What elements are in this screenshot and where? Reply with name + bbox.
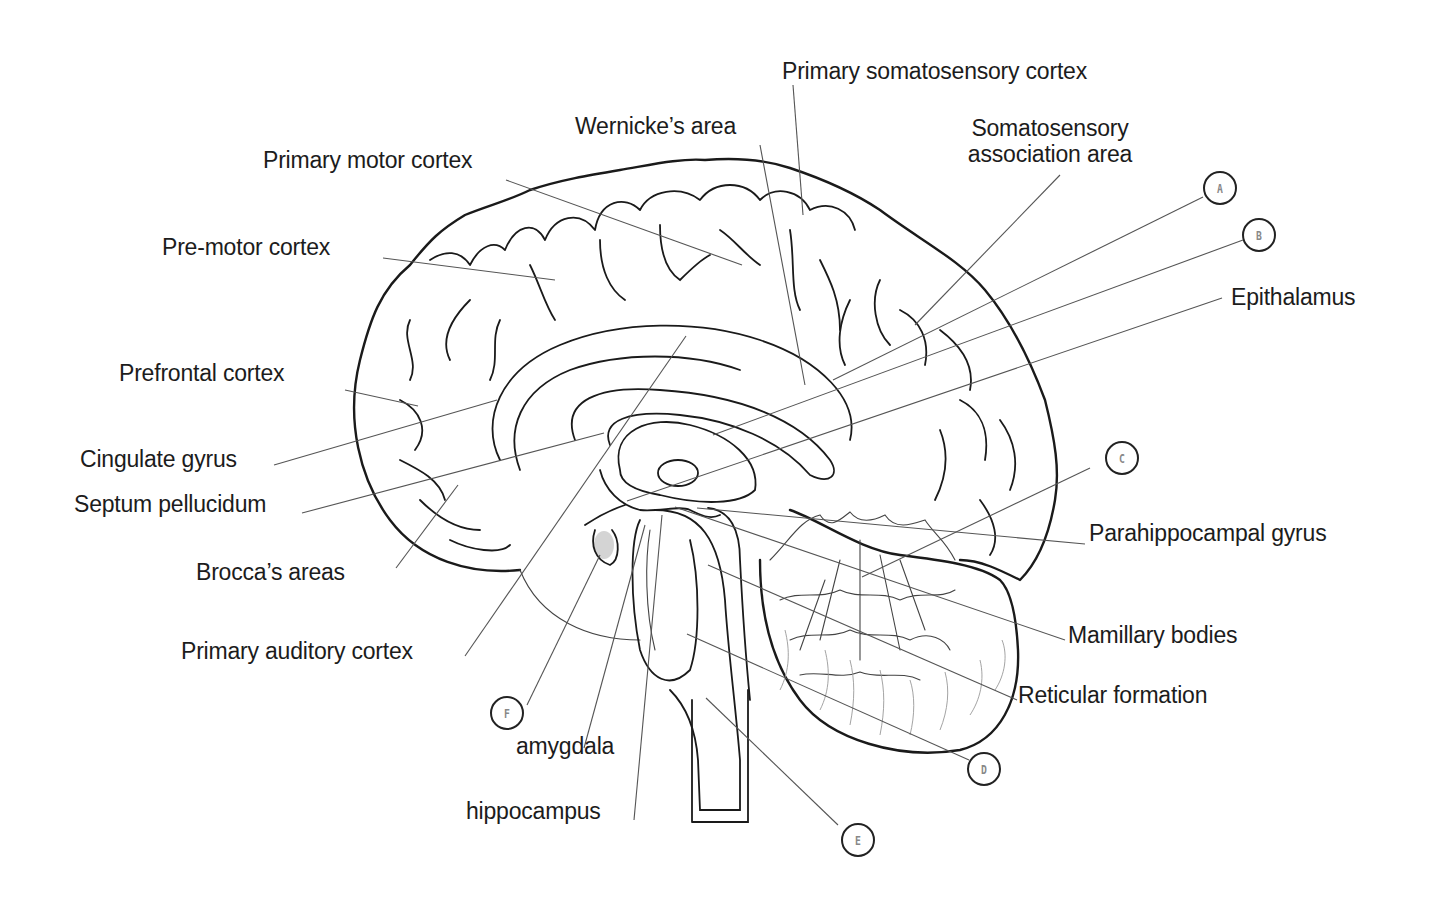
arbor-vitae	[770, 512, 955, 680]
marker-b: B	[1242, 218, 1276, 252]
pons	[633, 520, 698, 680]
marker-a: A	[1203, 171, 1237, 205]
label-line-2: association area	[950, 141, 1150, 167]
label-septum-pellucidum: Septum pellucidum	[74, 491, 266, 517]
label-cingulate-gyrus: Cingulate gyrus	[80, 446, 237, 472]
label-pre-motor-cortex: Pre-motor cortex	[162, 234, 330, 260]
label-prefrontal-cortex: Prefrontal cortex	[119, 360, 284, 386]
marker-f: F	[490, 696, 524, 730]
label-primary-motor-cortex: Primary motor cortex	[263, 147, 472, 173]
label-brocas-areas: Brocca’s areas	[196, 559, 345, 585]
leader-lines	[274, 85, 1243, 825]
label-amygdala: amygdala	[516, 733, 614, 759]
label-reticular-formation: Reticular formation	[1018, 682, 1207, 708]
label-hippocampus: hippocampus	[466, 798, 601, 824]
label-wernickes-area: Wernicke’s area	[575, 113, 736, 139]
label-line-1: Somatosensory	[950, 115, 1150, 141]
marker-e: E	[841, 823, 875, 857]
brainstem	[655, 510, 740, 810]
corpus-callosum	[572, 389, 834, 479]
label-primary-somatosensory-cortex: Primary somatosensory cortex	[782, 58, 1087, 84]
marker-d: D	[967, 752, 1001, 786]
label-epithalamus: Epithalamus	[1231, 284, 1355, 310]
label-parahippocampal-gyrus: Parahippocampal gyrus	[1089, 520, 1326, 546]
label-mamillary-bodies: Mamillary bodies	[1068, 622, 1237, 648]
interthalamic-adhesion	[658, 460, 698, 486]
label-primary-auditory-cortex: Primary auditory cortex	[181, 638, 413, 664]
label-somatosensory-association-area: Somatosensory association area	[950, 115, 1150, 167]
marker-c: C	[1105, 441, 1139, 475]
cerebellum-outline	[760, 510, 1018, 753]
